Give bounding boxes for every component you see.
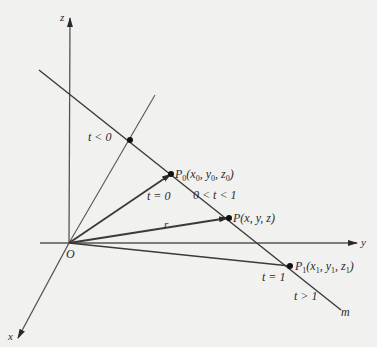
- y-axis-label: y: [361, 237, 366, 248]
- p1-label: P1(x1, y1, z1): [295, 260, 354, 275]
- z-axis-label: z: [60, 12, 64, 23]
- point-p: [226, 215, 232, 221]
- point-p0: [168, 171, 174, 177]
- t-between-label: 0 < t < 1: [193, 189, 237, 201]
- t-equals-zero-label: t = 0: [147, 190, 170, 202]
- point-p1: [287, 263, 293, 269]
- t-equals-one-label: t = 1: [262, 271, 285, 283]
- z-axis: [69, 18, 70, 243]
- ray-to-t-negative-point: [69, 95, 155, 243]
- p-label: P(x, y, z): [233, 212, 275, 224]
- line-m-label: m: [341, 306, 350, 318]
- x-axis-label: x: [8, 331, 13, 342]
- t-greater-than-one-label: t > 1: [294, 290, 317, 302]
- vector-r: [69, 218, 228, 243]
- line-in-space-diagram: z y x O m r t < 0 t = 0 0 < t < 1 t = 1 …: [0, 0, 377, 347]
- vector-r-label: r: [164, 219, 168, 230]
- origin-label: O: [66, 248, 75, 260]
- p0-label: P0(x0, y0, z0): [175, 168, 234, 183]
- vector-to-p0: [69, 174, 171, 243]
- segment-to-p1: [69, 243, 290, 266]
- point-t-negative: [127, 137, 133, 143]
- x-axis: [18, 243, 69, 338]
- t-less-than-zero-label: t < 0: [88, 131, 111, 143]
